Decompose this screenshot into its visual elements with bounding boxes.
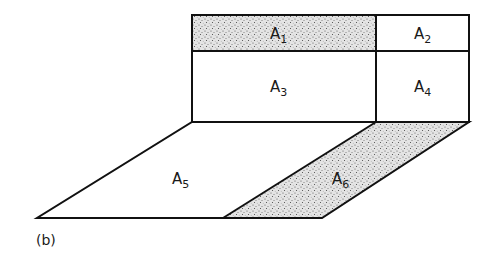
figure-label: (b) bbox=[36, 232, 56, 248]
label-a2: A2 bbox=[414, 25, 431, 46]
label-a5: A5 bbox=[172, 170, 189, 191]
label-a3: A3 bbox=[270, 78, 287, 99]
area-partition-diagram: A1 A2 A3 A4 A5 A6 (b) bbox=[0, 0, 497, 253]
label-a4: A4 bbox=[414, 78, 431, 99]
region-a6-fill bbox=[223, 122, 469, 218]
